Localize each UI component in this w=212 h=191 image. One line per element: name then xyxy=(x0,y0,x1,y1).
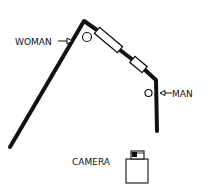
camera-label: CAMERA xyxy=(72,157,111,167)
man-arrow-head-icon xyxy=(160,91,165,96)
window-large xyxy=(94,27,122,52)
back-wall-mid-segment xyxy=(120,50,133,60)
ames-room-diagram: WOMAN MAN CAMERA xyxy=(0,0,212,191)
back-wall-left-segment xyxy=(84,21,97,30)
back-wall-right-segment xyxy=(144,69,157,131)
woman-label: WOMAN xyxy=(15,37,52,47)
woman-head-icon xyxy=(83,33,92,42)
man-label: MAN xyxy=(172,89,193,99)
window-small xyxy=(130,56,147,72)
camera-icon xyxy=(126,151,148,183)
man-head-icon xyxy=(145,90,152,97)
